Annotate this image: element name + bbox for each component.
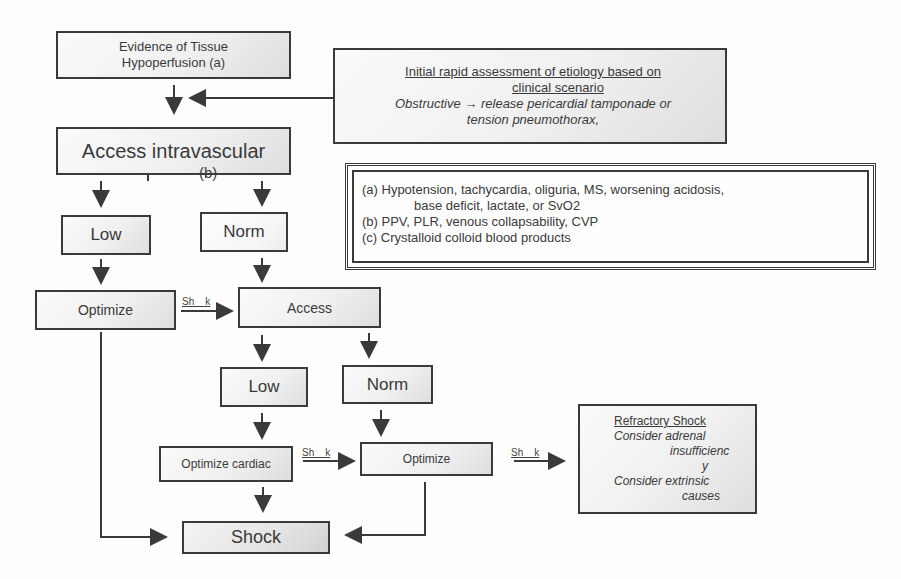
- access-intravascular-label: Access intravascular: [82, 140, 265, 163]
- legend-b: (b) PPV, PLR, venous collapsability, CVP: [362, 214, 724, 230]
- node-norm-2: Norm: [342, 365, 433, 404]
- refractory-line3: y: [614, 459, 708, 474]
- node-optimize-cardiac: Optimize cardiac: [159, 446, 293, 482]
- optimize-1-label: Optimize: [78, 302, 133, 318]
- refractory-line2: insufficienc: [614, 444, 729, 459]
- node-shock: Shock: [182, 521, 330, 554]
- node-access-2: Access: [238, 287, 381, 328]
- assessment-body-line2: tension pneumothorax,: [467, 112, 599, 128]
- edge-label-shock-3: Sh k: [511, 447, 539, 458]
- node-evidence-of-tissue-hypoperfusion: Evidence of Tissue Hypoperfusion (a): [56, 31, 291, 79]
- node-norm-1: Norm: [200, 212, 288, 252]
- low-2-label: Low: [248, 377, 279, 397]
- shock-label: Shock: [231, 527, 281, 548]
- low-1-label: Low: [90, 225, 121, 245]
- evidence-line2: Hypoperfusion (a): [122, 55, 225, 71]
- norm-1-label: Norm: [223, 222, 265, 242]
- norm-2-label: Norm: [367, 375, 409, 395]
- node-low-1: Low: [61, 215, 151, 255]
- edge-label-shock-2: Sh k: [302, 447, 330, 458]
- optimize-cardiac-label: Optimize cardiac: [181, 457, 270, 471]
- assessment-title-line1: Initial rapid assessment of etiology bas…: [405, 64, 661, 80]
- refractory-line5: causes: [614, 489, 720, 504]
- refractory-line4: Consider extrinsic: [614, 474, 709, 489]
- legend-a-line2: base deficit, lactate, or SvO2: [362, 198, 724, 214]
- node-access-intravascular: Access intravascular: [56, 127, 291, 175]
- evidence-line1: Evidence of Tissue: [119, 39, 228, 55]
- legend-c: (c) Crystalloid colloid blood products: [362, 230, 724, 246]
- node-optimize-2: Optimize: [360, 442, 493, 476]
- node-refractory-shock: Refractory Shock Consider adrenal insuff…: [578, 404, 757, 514]
- initial-assessment-box: Initial rapid assessment of etiology bas…: [333, 48, 727, 144]
- access-intravascular-footnote: (b): [199, 164, 217, 181]
- edge-label-shock-1: Sh k: [182, 296, 210, 307]
- node-optimize-1: Optimize: [35, 290, 176, 330]
- assessment-body-line1: Obstructive → release pericardial tampon…: [395, 96, 671, 112]
- legend-box: (a) Hypotension, tachycardia, oliguria, …: [345, 163, 876, 270]
- optimize-2-label: Optimize: [403, 452, 450, 466]
- assessment-title-line2: clinical scenario: [512, 80, 604, 96]
- node-low-2: Low: [220, 367, 308, 407]
- refractory-line1: Consider adrenal: [614, 429, 705, 444]
- access-2-label: Access: [287, 300, 332, 316]
- legend-a-line1: (a) Hypotension, tachycardia, oliguria, …: [362, 182, 724, 198]
- refractory-title: Refractory Shock: [614, 414, 706, 429]
